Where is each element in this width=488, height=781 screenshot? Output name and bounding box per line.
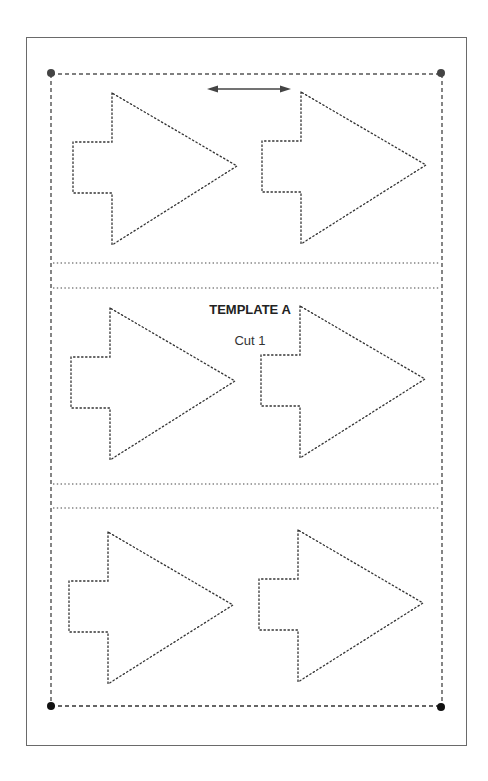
corner-dot-top-left [47,69,55,77]
arrow-shape-r3-left [69,532,233,684]
double-arrow-icon [207,86,291,93]
separator-bands [53,263,440,508]
arrow-shape-r1-right [262,92,426,244]
arrow-shape-r3-right [259,530,423,682]
corner-dot-bottom-left [47,702,55,710]
template-title: TEMPLATE A [190,302,310,317]
cut-instruction: Cut 1 [190,333,310,348]
arrow-shape-r1-left [73,93,237,245]
template-diagram [0,0,488,781]
arrow-shape-r2-left [71,308,235,460]
corner-dot-bottom-right [437,703,445,711]
cut-outline [51,74,442,706]
corner-dot-top-right [437,69,445,77]
arrow-shape-r2-right [261,306,425,458]
